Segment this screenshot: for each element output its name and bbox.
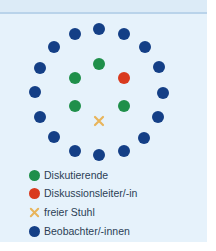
observer-seat bbox=[139, 41, 151, 53]
legend-item-discussant: Diskutierende bbox=[29, 168, 108, 182]
blue-dot-icon bbox=[29, 226, 40, 237]
free-chair-cross-icon bbox=[93, 115, 105, 127]
legend-label: freier Stuhl bbox=[44, 206, 95, 218]
diagram-panel: Diskutierende Diskussionsleiter/-in frei… bbox=[0, 0, 207, 242]
red-dot-icon bbox=[29, 188, 40, 199]
green-dot-icon bbox=[29, 170, 40, 181]
observer-seat bbox=[69, 145, 81, 157]
observer-seat bbox=[93, 23, 105, 35]
legend-item-moderator: Diskussionsleiter/-in bbox=[29, 186, 137, 200]
discussant-seat bbox=[93, 58, 105, 70]
cross-icon bbox=[29, 207, 40, 218]
observer-seat bbox=[157, 87, 169, 99]
discussant-seat bbox=[69, 100, 81, 112]
observer-seat bbox=[153, 61, 165, 73]
observer-seat bbox=[69, 28, 81, 40]
moderator-seat bbox=[118, 72, 130, 84]
observer-seat bbox=[118, 145, 130, 157]
top-band bbox=[0, 0, 207, 14]
observer-seat bbox=[48, 131, 60, 143]
observer-seat bbox=[29, 86, 41, 98]
discussant-seat bbox=[69, 72, 81, 84]
observer-seat bbox=[34, 111, 46, 123]
observer-seat bbox=[93, 149, 105, 161]
legend-label: Diskussionsleiter/-in bbox=[44, 187, 137, 199]
discussant-seat bbox=[118, 100, 130, 112]
legend-item-free-chair: freier Stuhl bbox=[29, 205, 95, 219]
legend-label: Diskutierende bbox=[44, 169, 108, 181]
observer-seat bbox=[138, 132, 150, 144]
observer-seat bbox=[118, 28, 130, 40]
observer-seat bbox=[48, 41, 60, 53]
observer-seat bbox=[34, 62, 46, 74]
observer-seat bbox=[152, 111, 164, 123]
legend-item-observer: Beobachter/-innen bbox=[29, 224, 130, 238]
legend-label: Beobachter/-innen bbox=[44, 225, 130, 237]
